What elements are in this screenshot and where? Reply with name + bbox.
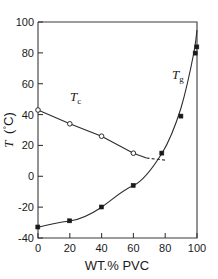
tc-point-40 xyxy=(99,134,104,139)
tg-point-20 xyxy=(68,219,72,223)
y-tick-label-neg20: -20 xyxy=(18,201,34,213)
tc-point-20 xyxy=(68,122,73,127)
x-tick-label-40: 40 xyxy=(95,242,107,254)
tg-point-100 xyxy=(195,45,199,49)
tc-data-points xyxy=(36,108,136,156)
y-tick-label-100: 100 xyxy=(16,16,34,28)
tg-label: Tg xyxy=(172,67,184,84)
tc-point-0 xyxy=(36,108,41,113)
y-tick-label-neg40: -40 xyxy=(18,232,34,244)
y-tick-label-20: 20 xyxy=(22,139,34,151)
chart-figure: 100 80 60 40 20 0 -20 -40 0 20 40 60 80 … xyxy=(0,0,218,279)
x-axis-title: WT.% PVC xyxy=(85,258,149,273)
x-axis-ticks xyxy=(38,233,197,238)
y-axis-title: T (°C) xyxy=(1,112,16,148)
tc-point-60 xyxy=(131,151,136,156)
tc-label-subscript: c xyxy=(77,96,81,106)
y-tick-label-0: 0 xyxy=(28,170,34,182)
tg-point-78 xyxy=(160,151,164,155)
y-axis-title-paren-close: ) xyxy=(1,112,16,116)
tg-curve xyxy=(38,30,197,227)
tg-point-99 xyxy=(193,51,197,55)
tg-label-subscript: g xyxy=(179,74,184,84)
y-axis-title-main: T xyxy=(1,140,16,148)
tg-point-90 xyxy=(179,114,183,118)
tg-point-0 xyxy=(36,225,40,229)
y-axis-tick-labels: 100 80 60 40 20 0 -20 -40 xyxy=(16,16,34,244)
y-tick-label-80: 80 xyxy=(22,47,34,59)
x-tick-label-20: 20 xyxy=(64,242,76,254)
plot-canvas: 100 80 60 40 20 0 -20 -40 0 20 40 60 80 … xyxy=(0,0,218,279)
x-tick-label-0: 0 xyxy=(35,242,41,254)
y-axis-ticks xyxy=(38,22,43,238)
tg-point-40 xyxy=(99,205,103,209)
tg-point-60 xyxy=(131,183,135,187)
tc-line-extrapolated xyxy=(147,158,168,160)
x-tick-label-60: 60 xyxy=(127,242,139,254)
svg-text:T (°C): T (°C) xyxy=(1,112,16,148)
x-axis-tick-labels: 0 20 40 60 80 100 xyxy=(35,242,206,254)
x-tick-label-80: 80 xyxy=(159,242,171,254)
y-tick-label-40: 40 xyxy=(22,109,34,121)
tc-line xyxy=(38,110,147,158)
tc-label: Tc xyxy=(70,89,81,106)
y-axis-title-celsius: C xyxy=(1,117,16,126)
x-tick-label-100: 100 xyxy=(188,242,206,254)
y-tick-label-60: 60 xyxy=(22,78,34,90)
